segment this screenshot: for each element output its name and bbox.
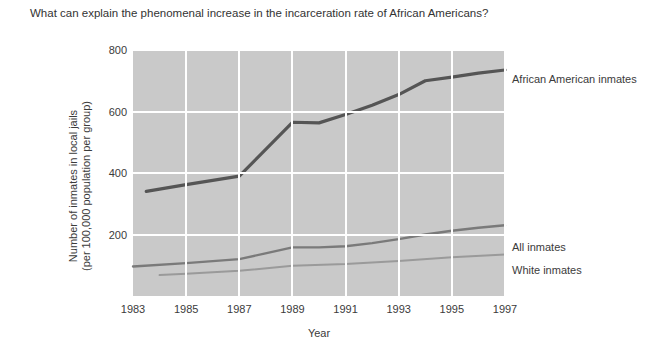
plot-area: 2004006008001983198519871989199119931995…: [133, 50, 505, 296]
gridline-vertical: [185, 50, 187, 296]
y-axis-tick-800: 800: [109, 44, 127, 56]
gridline-vertical: [398, 50, 400, 296]
gridline-horizontal: [133, 172, 505, 174]
x-axis-tick-1991: 1991: [333, 303, 357, 315]
y-axis-tick-200: 200: [109, 229, 127, 241]
x-axis-tick-1993: 1993: [386, 303, 410, 315]
gridline-vertical: [451, 50, 453, 296]
series-line-white-inmates: [160, 254, 505, 275]
legend-label-white-inmates: White inmates: [512, 264, 582, 276]
gridline-horizontal: [133, 49, 505, 51]
gridline-vertical: [345, 50, 347, 296]
y-axis-label-line1: Number of inmates in local jails: [67, 76, 80, 296]
line-chart-figure: 2004006008001983198519871989199119931995…: [0, 0, 647, 353]
y-axis-label-line2: (per 100,000 population per group): [80, 76, 93, 296]
y-axis-tick-600: 600: [109, 106, 127, 118]
x-axis-tick-1983: 1983: [121, 303, 145, 315]
x-axis-tick-1997: 1997: [493, 303, 517, 315]
series-line-all-inmates: [133, 225, 505, 266]
legend-label-all-inmates: All inmates: [512, 241, 566, 253]
gridline-horizontal: [133, 234, 505, 236]
x-axis-tick-1987: 1987: [227, 303, 251, 315]
gridline-vertical: [291, 50, 293, 296]
gridline-vertical: [504, 50, 506, 296]
gridline-vertical: [238, 50, 240, 296]
gridline-horizontal: [133, 111, 505, 113]
x-axis-tick-1989: 1989: [280, 303, 304, 315]
y-axis-tick-400: 400: [109, 167, 127, 179]
x-axis-tick-1985: 1985: [174, 303, 198, 315]
x-axis-label: Year: [133, 327, 505, 339]
y-axis-label: Number of inmates in local jails (per 10…: [67, 76, 93, 296]
legend-label-african-american-inmates: African American inmates: [512, 73, 637, 85]
x-axis-tick-1995: 1995: [440, 303, 464, 315]
